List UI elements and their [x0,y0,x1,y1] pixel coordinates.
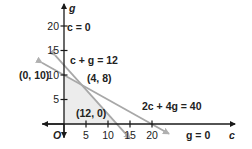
x-tick-15: 15 [124,129,136,141]
y-tick-5: 5 [53,93,59,105]
x-tick-10: 10 [102,129,114,141]
y-tick-15: 15 [47,44,59,56]
vertex-12-0-label: (12, 0) [76,107,106,119]
x-tick-5: 5 [83,129,89,141]
c-eq-0-label: c = 0 [67,21,91,33]
vertex-0-10-label: (0, 10) [19,69,49,81]
y-tick-20: 20 [47,20,59,32]
vertex-4-8-label: (4, 8) [87,72,112,84]
y-axis-label: g [68,2,76,14]
linear-programming-graph: 5 10 15 20 5 10 15 20 g c O c = 0 c + g … [0,0,252,149]
line2-label: 2c + 4g = 40 [142,100,202,112]
g-eq-0-label: g = 0 [186,129,210,141]
x-axis-label: c [229,129,235,141]
line1-label: c + g = 12 [70,54,118,66]
origin-label: O [53,129,61,141]
x-tick-20: 20 [146,129,158,141]
